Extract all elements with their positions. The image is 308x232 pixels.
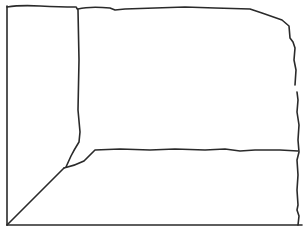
inner-vertical-wall-line	[66, 7, 80, 167]
sketch-diagram	[0, 0, 308, 232]
top-left-wall-line	[7, 6, 75, 7]
diagonal-wall-line	[7, 168, 64, 225]
right-wall-line	[297, 92, 299, 225]
top-right-wall-line	[78, 7, 296, 85]
middle-horizontal-wall-line	[64, 149, 298, 168]
